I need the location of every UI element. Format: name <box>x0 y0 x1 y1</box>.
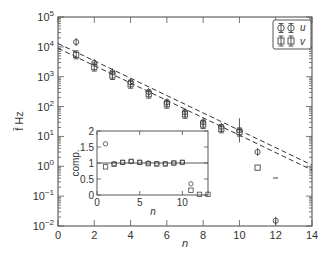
y-tick-label: 102 <box>37 99 54 113</box>
inset-y-tick-label: 0.5 <box>80 174 94 185</box>
x-tick-label: 8 <box>200 229 206 241</box>
inset-chart: 00.511.52 0510 n comp. <box>70 126 210 217</box>
inset-y-tick-label: 1.5 <box>80 142 94 153</box>
y-tick-label: 101 <box>37 128 54 142</box>
x-tick-label: 12 <box>270 229 282 241</box>
x-tick-label: 14 <box>306 229 318 241</box>
legend-label-u: u <box>300 22 306 33</box>
data-point-v <box>255 165 260 170</box>
inset-y-tick-label: 2 <box>88 126 94 137</box>
frequency-vs-mode-chart: 10−210−1100101102103104105 02468101214 n… <box>0 0 334 253</box>
legend: u v <box>273 20 311 49</box>
y-tick-label: 10−1 <box>33 188 55 202</box>
y-tick-label: 103 <box>37 69 54 83</box>
inset-x-tick-label: 5 <box>137 197 143 208</box>
y-tick-label: 10−2 <box>33 218 55 232</box>
y-tick-label: 100 <box>37 158 54 172</box>
inset-y-label: comp. <box>70 149 81 176</box>
x-tick-label: 2 <box>91 229 97 241</box>
x-tick-label: 10 <box>233 229 245 241</box>
y-tick-label: 105 <box>37 9 54 23</box>
x-tick-label: 0 <box>55 229 61 241</box>
y-axis-label: f̄ Hz <box>13 111 25 131</box>
x-tick-label: 6 <box>164 229 170 241</box>
inset-y-tick-label: 1 <box>88 158 94 169</box>
y-tick-label: 104 <box>37 39 54 53</box>
x-axis-label: n <box>182 237 188 249</box>
inset-x-label: n <box>150 206 156 217</box>
inset-x-tick-label: 0 <box>94 197 100 208</box>
inset-x-tick-label: 10 <box>177 197 189 208</box>
y-tick-labels: 10−210−1100101102103104105 <box>33 9 55 232</box>
x-tick-label: 4 <box>128 229 134 241</box>
